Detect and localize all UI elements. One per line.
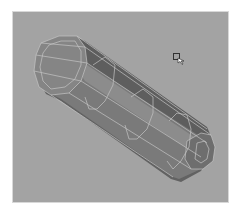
- select-cursor-icon: [173, 53, 185, 65]
- mesh-canvas[interactable]: [12, 11, 229, 203]
- 3d-viewport[interactable]: [12, 11, 229, 203]
